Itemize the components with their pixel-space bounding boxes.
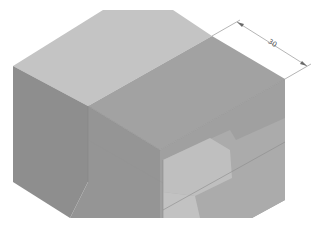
isometric-block-drawing: 30: [0, 0, 321, 229]
dimension-arrow-icon: [300, 61, 307, 66]
cad-isometric-view: 30: [0, 0, 321, 229]
dimension-label: 30: [266, 37, 278, 49]
dimension-extension-line: [212, 20, 240, 36]
dimension-arrow-icon: [237, 22, 244, 27]
dimension-extension-line: [285, 64, 311, 79]
